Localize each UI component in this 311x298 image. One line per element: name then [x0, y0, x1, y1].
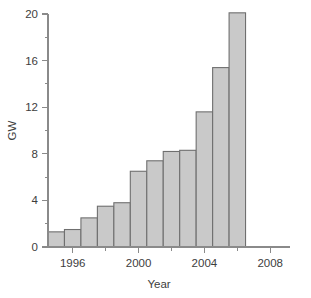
y-tick-label-8: 8: [32, 148, 38, 160]
bar-2004: [196, 112, 212, 247]
plot-area: 0481216201996200020042008 YearGW: [0, 0, 311, 298]
bar-chart-figure: 0481216201996200020042008 YearGW: [0, 0, 311, 298]
y-tick-label-20: 20: [25, 8, 38, 20]
y-tick-label-12: 12: [25, 101, 38, 113]
chart-canvas: 0481216201996200020042008 YearGW: [0, 0, 311, 298]
bar-2005: [213, 68, 229, 247]
x-tick-label-1996: 1996: [60, 257, 86, 269]
bars-group: [48, 13, 246, 247]
bar-2003: [180, 150, 196, 247]
bar-2006: [229, 13, 245, 247]
x-tick-label-2000: 2000: [126, 257, 152, 269]
y-tick-label-4: 4: [32, 194, 39, 206]
bar-1999: [114, 203, 130, 247]
x-axis-title: Year: [147, 278, 170, 290]
bar-2002: [163, 151, 179, 247]
x-tick-label-2004: 2004: [192, 257, 218, 269]
bar-2001: [147, 161, 163, 247]
y-tick-label-0: 0: [32, 241, 38, 253]
bar-1997: [81, 218, 97, 247]
y-tick-label-16: 16: [25, 55, 38, 67]
bar-2000: [130, 171, 146, 247]
y-axis-title: GW: [6, 120, 18, 140]
x-tick-label-2008: 2008: [257, 257, 283, 269]
bar-1998: [97, 206, 113, 247]
bar-1996: [64, 230, 80, 247]
bar-1995: [48, 232, 64, 247]
